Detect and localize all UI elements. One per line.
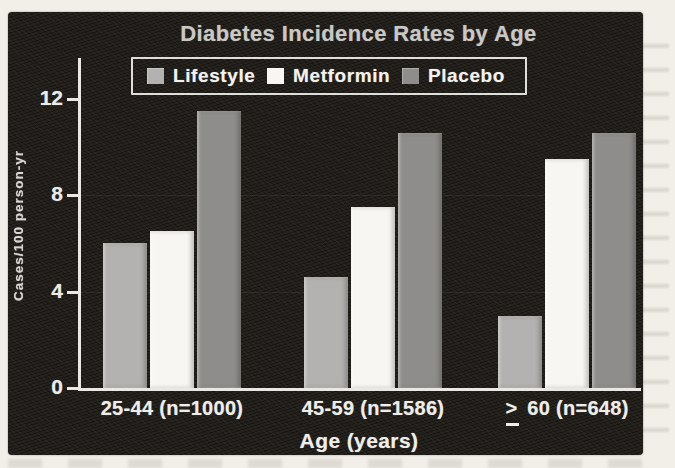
y-tick-label-0: 0 [25, 375, 63, 399]
bar-placebo-1 [398, 133, 442, 388]
legend-label: Metformin [293, 65, 390, 87]
x-tick-label-2: > 60 (n=648) [457, 397, 675, 420]
x-axis-line [78, 388, 641, 391]
bar-lifestyle-2 [498, 316, 542, 388]
chart-title: Diabetes Incidence Rates by Age [78, 21, 639, 47]
x-tick-label-0: 25-44 (n=1000) [62, 397, 282, 420]
bar-placebo-2 [592, 133, 636, 388]
y-tick-label-4: 4 [25, 279, 63, 303]
page-bleed-artifact [642, 42, 669, 432]
y-tick-mark-12 [67, 98, 78, 101]
y-tick-label-12: 12 [25, 86, 63, 110]
bar-metformin-1 [351, 207, 395, 388]
x-axis-label: Age (years) [78, 429, 640, 453]
y-tick-label-8: 8 [25, 182, 63, 206]
greater-equal-symbol: > [505, 397, 517, 420]
y-tick-mark-8 [67, 194, 78, 197]
chart-legend: LifestyleMetforminPlacebo [131, 57, 527, 95]
x-tick-label-1: 45-59 (n=1586) [263, 397, 483, 420]
bar-placebo-0 [197, 111, 241, 388]
bar-metformin-0 [150, 231, 194, 388]
bar-group-0 [103, 111, 241, 388]
legend-swatch-lifestyle [147, 68, 164, 84]
plot-area [78, 99, 640, 388]
legend-label: Placebo [428, 65, 505, 87]
legend-entry-lifestyle: Lifestyle [147, 65, 256, 87]
bar-metformin-2 [545, 159, 589, 388]
y-axis-label: Cases/100 person-yr [11, 94, 37, 356]
legend-swatch-metformin [267, 68, 284, 84]
bar-lifestyle-0 [103, 243, 147, 388]
chart-panel: Diabetes Incidence Rates by Age Lifestyl… [8, 12, 643, 455]
legend-entry-placebo: Placebo [402, 65, 505, 87]
page-bleed-artifact [8, 459, 662, 468]
legend-label: Lifestyle [173, 65, 256, 87]
legend-entry-metformin: Metformin [267, 65, 390, 87]
bar-lifestyle-1 [304, 277, 348, 388]
bar-group-2 [498, 133, 636, 388]
legend-swatch-placebo [402, 68, 419, 84]
bar-group-1 [304, 133, 442, 388]
y-tick-mark-0 [67, 387, 78, 390]
y-tick-mark-4 [67, 291, 78, 294]
